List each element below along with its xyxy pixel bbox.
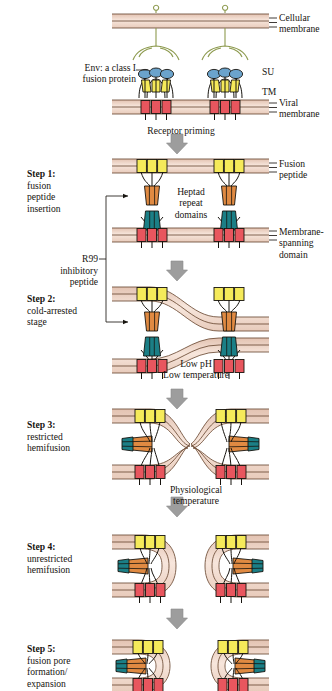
membrane-spanning-trio xyxy=(218,679,248,691)
heptad-hairpin-horizontal xyxy=(233,558,263,574)
heptad-hairpin-horizontal xyxy=(229,436,259,452)
membrane-spanning-trio xyxy=(137,229,167,249)
heptad-repeat-stack xyxy=(221,312,238,356)
heptad-repeat-stack xyxy=(221,186,238,230)
transition-receptor-priming: Receptor priming xyxy=(136,125,226,136)
fusion-peptide-trio xyxy=(216,410,246,423)
r99-bracket xyxy=(99,196,128,322)
label-env: Env: a class I fusion protein xyxy=(28,62,136,85)
transition-low-ph-temperature: Low pH Low temperature xyxy=(150,358,242,381)
label-r99: R99 xyxy=(18,253,98,264)
fusion-peptide-trio xyxy=(214,160,244,173)
step-1-name: Step 1: xyxy=(27,168,56,179)
membrane-spanning-trio xyxy=(133,679,163,691)
cellular-membrane-b xyxy=(112,159,269,173)
label-viral-membrane: Viral membrane xyxy=(279,97,332,120)
membrane-spanning-trio xyxy=(135,584,165,604)
membrane-spanning-trio xyxy=(216,466,246,486)
step-2-desc: cold-arrested stage xyxy=(27,305,77,328)
env-spike xyxy=(138,68,173,98)
membrane-spanning-trio xyxy=(135,466,165,486)
fusion-peptide-trio xyxy=(133,641,163,654)
label-heptad-repeat: Heptad repeat domains xyxy=(166,186,216,220)
fusion-peptide-trio xyxy=(135,410,165,423)
heptad-hairpin-horizontal xyxy=(116,658,146,674)
heptad-hairpin-horizontal xyxy=(235,658,265,674)
transition-arrow xyxy=(167,261,188,281)
heptad-repeat-stack xyxy=(144,312,161,356)
transition-physiological-temperature: Physiological temperature xyxy=(148,484,244,507)
cellular-membrane-top xyxy=(112,14,269,28)
label-fusion-peptide: Fusion peptide xyxy=(279,158,332,181)
panel-step3 xyxy=(112,409,269,485)
fusion-peptide-trio xyxy=(214,288,244,301)
label-cellular-membrane: Cellular membrane xyxy=(279,12,332,35)
fusion-peptide-trio xyxy=(216,536,246,549)
label-membrane-spanning: Membrane- spanning domain xyxy=(279,226,332,260)
figure-canvas: Cellular membrane Env: a class I fusion … xyxy=(0,0,332,691)
viral-membrane-a xyxy=(112,100,269,114)
panel-step5 xyxy=(112,640,269,691)
transition-arrow xyxy=(167,389,188,409)
receptor-molecule xyxy=(202,5,248,60)
heptad-hairpin-horizontal xyxy=(118,558,148,574)
label-tm: TM xyxy=(262,86,276,97)
step-1-desc: fusion peptide insertion xyxy=(27,180,61,214)
fusion-peptide-trio xyxy=(137,160,167,173)
heptad-hairpin-horizontal xyxy=(122,436,152,452)
membrane-spanning-trio xyxy=(216,584,246,604)
membrane-spanning-trio xyxy=(214,229,244,249)
step-5-desc: fusion pore formation/ expansion xyxy=(27,655,70,689)
heptad-repeat-stack xyxy=(144,186,161,230)
fusion-peptide-trio xyxy=(137,288,167,301)
membrane-spanning-trio xyxy=(141,101,171,121)
label-su: SU xyxy=(262,66,274,77)
step-2-name: Step 2: xyxy=(27,293,56,304)
step-4-desc: unrestricted hemifusion xyxy=(27,553,72,576)
step-5-name: Step 5: xyxy=(27,643,56,654)
step-3-name: Step 3: xyxy=(27,419,56,430)
fusion-peptide-trio xyxy=(218,641,248,654)
step-4-name: Step 4: xyxy=(27,541,56,552)
receptor-molecule xyxy=(133,5,179,60)
step-3-desc: restricted hemifusion xyxy=(27,431,70,454)
label-r99-rest: inhibitory peptide xyxy=(18,265,98,288)
transition-arrow xyxy=(167,134,188,154)
linker-strands xyxy=(140,422,241,470)
fusion-peptide-trio xyxy=(135,536,165,549)
transition-arrow xyxy=(167,609,188,629)
membrane-spanning-trio xyxy=(210,101,240,121)
viral-membrane-b xyxy=(112,228,269,242)
env-spike xyxy=(207,68,242,98)
panel-step4 xyxy=(112,535,269,603)
cellular-membrane-c xyxy=(112,287,269,331)
